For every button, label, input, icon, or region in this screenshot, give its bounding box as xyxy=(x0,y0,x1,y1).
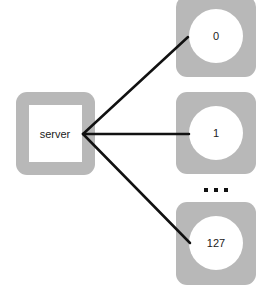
client-node-127[interactable]: 127 xyxy=(176,202,256,285)
diagram-canvas: server 0 1 127 xyxy=(0,0,271,296)
ellipsis-dot xyxy=(214,188,218,192)
edge-server-client-127 xyxy=(83,134,190,243)
ellipsis-dots xyxy=(204,188,228,192)
client-label: 1 xyxy=(213,127,219,139)
edges xyxy=(83,37,190,243)
edge-server-client-0 xyxy=(83,37,188,134)
ellipsis-dot xyxy=(224,188,228,192)
ellipsis-dot xyxy=(204,188,208,192)
client-label: 127 xyxy=(207,237,225,249)
client-label: 0 xyxy=(213,30,219,42)
server-label: server xyxy=(40,128,71,140)
